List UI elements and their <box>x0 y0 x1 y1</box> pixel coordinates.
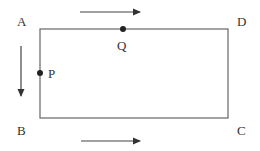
corner-label-d: D <box>237 15 246 28</box>
rectangle-abcd <box>40 29 228 118</box>
diagram-svg <box>0 0 260 151</box>
point-p-dot <box>37 70 43 76</box>
point-label-q: Q <box>117 39 126 52</box>
corner-label-c: C <box>237 124 246 137</box>
point-label-p: P <box>48 67 55 80</box>
point-q-dot <box>120 26 126 32</box>
corner-label-a: A <box>17 15 26 28</box>
corner-label-b: B <box>17 124 26 137</box>
diagram-canvas: A B C D P Q <box>0 0 260 151</box>
